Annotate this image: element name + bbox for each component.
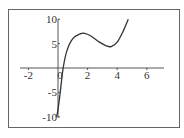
x-tick-label: 4 xyxy=(114,69,120,81)
y-tick-label: 10 xyxy=(46,13,58,25)
x-tick-label: -2 xyxy=(24,69,33,81)
function-plot: -20246-10-5510 xyxy=(0,0,184,138)
y-tick-label: -10 xyxy=(42,111,57,123)
x-tick-label: 6 xyxy=(144,69,150,81)
y-tick-label: -5 xyxy=(48,86,58,98)
x-tick-label: 2 xyxy=(85,69,91,81)
y-tick-label: 5 xyxy=(52,38,58,50)
